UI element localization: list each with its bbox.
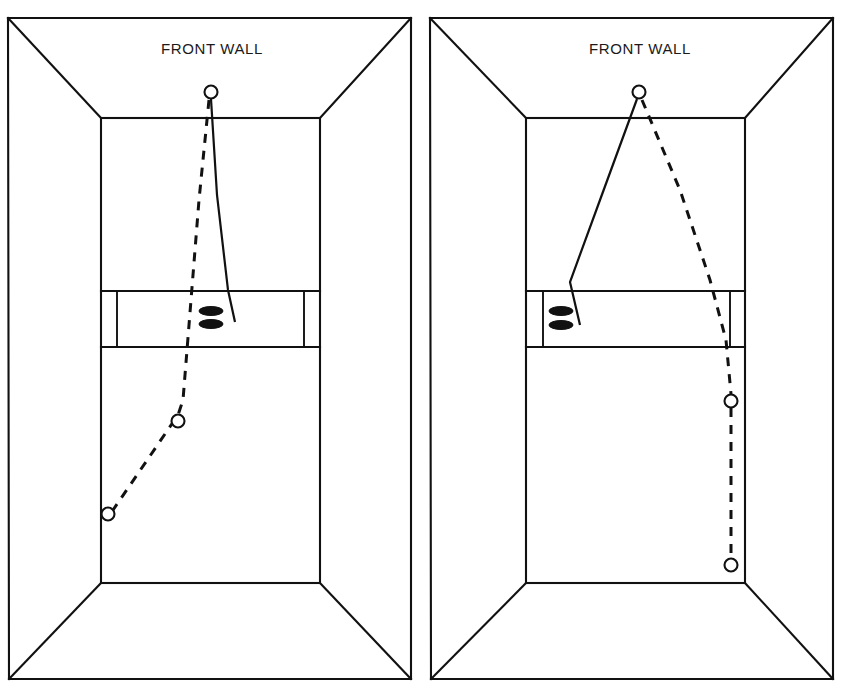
perspective-edge-3 (745, 583, 833, 679)
ball-side-wall-marker (102, 508, 115, 521)
front-wall-label: FRONT WALL (589, 40, 691, 57)
ball-front-wall-marker (205, 86, 218, 99)
perspective-edge-1 (320, 18, 411, 118)
right-court-svg: FRONT WALL (420, 0, 841, 690)
left-court-panel: FRONT WALL (0, 0, 420, 690)
shoe-right-icon (549, 321, 573, 330)
perspective-edge-1 (745, 18, 833, 118)
perspective-edge-2 (431, 583, 526, 679)
ball-front-wall-marker (633, 86, 646, 99)
shoe-left-icon (549, 307, 573, 316)
ball-mid-court-marker (172, 415, 185, 428)
ball-mid-court-marker (725, 395, 738, 408)
perspective-edge-0 (430, 18, 526, 118)
solid-trajectory-incoming-shot (211, 99, 235, 322)
perspective-edge-3 (320, 583, 411, 679)
left-court-svg: FRONT WALL (0, 0, 420, 690)
shoe-right-icon (199, 320, 223, 329)
right-court-panel: FRONT WALL (420, 0, 841, 690)
dashed-trajectory-rebound-path (113, 100, 209, 510)
ball-floor-marker (725, 559, 738, 572)
front-wall-rect (526, 118, 745, 583)
court-diagram-figure: FRONT WALL FRONT WALL (0, 0, 841, 690)
dashed-trajectory-rebound-path (642, 100, 731, 558)
front-wall-rect (101, 118, 320, 583)
shoe-left-icon (199, 307, 223, 316)
perspective-edge-2 (9, 583, 101, 679)
front-wall-label: FRONT WALL (161, 40, 263, 57)
perspective-edge-0 (8, 18, 101, 118)
